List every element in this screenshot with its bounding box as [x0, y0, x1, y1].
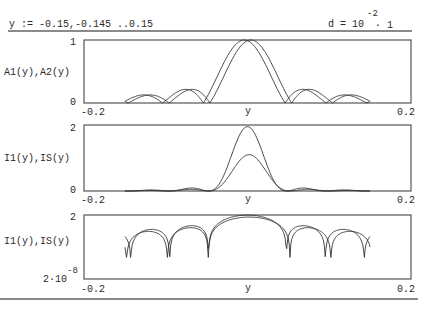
plot3-xtick-right: 0.2 [397, 284, 415, 296]
plot-frame [84, 125, 411, 191]
plot1-ytick-bottom: 0 [70, 97, 76, 109]
plot1-xlabel: y [245, 106, 251, 118]
d-definition-exponent: -2 [367, 9, 378, 19]
plot3-ytick-bottom-mantissa: 2·10 [43, 274, 67, 286]
plot3-xtick-left: -0.2 [81, 284, 105, 296]
series-i1y [125, 155, 370, 191]
plot1-area [84, 40, 411, 103]
plot-frame [84, 40, 411, 103]
series-i1y [125, 217, 370, 257]
plot2-xtick-left: -0.2 [81, 195, 105, 207]
plot3-ylabel: I1(y),IS(y) [4, 236, 70, 248]
d-definition[interactable]: d = 10 -2 · 1 [325, 6, 425, 30]
plot3-ytick-top: 2 [70, 212, 76, 224]
plot1-xtick-right: 0.2 [397, 107, 415, 119]
plot2-xtick-right: 0.2 [397, 195, 415, 207]
plot2-ylabel: I1(y),IS(y) [4, 153, 70, 165]
series-isy [125, 127, 370, 191]
plot2-ytick-top: 2 [70, 123, 76, 135]
plot3-area [84, 215, 411, 279]
plot-frame [84, 215, 411, 279]
plot1-ylabel: A1(y),A2(y) [4, 67, 70, 79]
plot2-ytick-bottom: 0 [70, 185, 76, 197]
plot3-xlabel: y [245, 283, 251, 295]
region-separator-top [8, 30, 412, 32]
series-a2y [125, 40, 370, 103]
plot2-xlabel: y [245, 194, 251, 206]
region-separator-bottom [0, 298, 418, 300]
plot1-xtick-left: -0.2 [81, 107, 105, 119]
plot2-area [84, 125, 411, 191]
plot1-ytick-top: 1 [70, 37, 76, 49]
plot3-ytick-bottom-exponent: -8 [67, 266, 78, 276]
series-a1y [125, 40, 370, 103]
